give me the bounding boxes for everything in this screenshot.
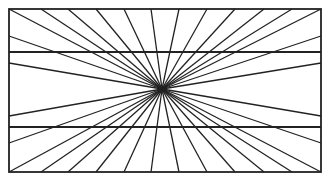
ray-line: [162, 89, 264, 172]
ray-line: [162, 9, 264, 89]
ray-line: [162, 9, 292, 89]
ray-line: [9, 9, 162, 89]
hering-illusion-figure: [0, 0, 328, 183]
radiating-rays: [9, 9, 321, 172]
ray-line: [68, 9, 162, 89]
ray-line: [9, 89, 162, 116]
ray-line: [162, 63, 321, 89]
ray-line: [68, 89, 162, 172]
ray-line: [162, 9, 321, 89]
ray-line: [41, 89, 162, 172]
ray-line: [162, 89, 321, 172]
ray-line: [9, 89, 162, 172]
ray-line: [9, 36, 162, 89]
ray-line: [9, 63, 162, 89]
ray-line: [162, 89, 292, 172]
ray-line: [9, 89, 162, 143]
ray-line: [162, 89, 321, 116]
ray-line: [41, 9, 162, 89]
